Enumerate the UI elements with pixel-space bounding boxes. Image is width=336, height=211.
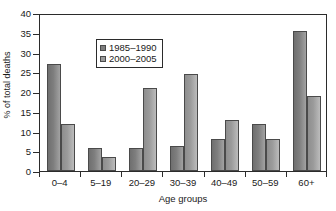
x-axis-tick xyxy=(121,172,122,177)
x-axis-tick xyxy=(326,172,327,177)
y-axis-tick-label: 30 xyxy=(0,49,31,59)
x-axis-tick-label: 5–19 xyxy=(90,178,111,188)
legend-swatch-icon xyxy=(100,56,106,62)
bar-0_4-series1 xyxy=(61,124,75,171)
y-axis-tick-label: 20 xyxy=(0,88,31,98)
legend-item-label: 1985–1990 xyxy=(109,43,157,53)
y-axis-tick-label: 25 xyxy=(0,69,31,79)
bar-20_29-series0 xyxy=(129,148,143,171)
y-axis-tick-label: 5 xyxy=(0,148,31,158)
x-axis-tick-label: 30–39 xyxy=(170,178,196,188)
y-axis-tick-label: 0 xyxy=(0,167,31,177)
bar-5_19-series1 xyxy=(102,157,116,171)
x-axis-tick-label: 40–49 xyxy=(211,178,237,188)
x-axis-tick-label: 50–59 xyxy=(252,178,278,188)
bar-0_4-series0 xyxy=(47,64,61,171)
y-axis-tick-label: 15 xyxy=(0,108,31,118)
x-axis-tick xyxy=(286,172,287,177)
bar-30_39-series0 xyxy=(170,146,184,171)
x-axis-tick xyxy=(204,172,205,177)
bar-50_59-series0 xyxy=(252,124,266,171)
x-axis-tick xyxy=(39,172,40,177)
x-axis-tick-label: 0–4 xyxy=(52,178,68,188)
x-axis-tick xyxy=(245,172,246,177)
bar-40_49-series1 xyxy=(225,120,239,171)
bar-60+-series1 xyxy=(307,96,321,171)
legend-item-1: 2000–2005 xyxy=(100,53,157,64)
x-axis-tick-label: 20–29 xyxy=(129,178,155,188)
bar-20_29-series1 xyxy=(143,88,157,171)
bar-5_19-series0 xyxy=(88,148,102,171)
bar-30_39-series1 xyxy=(184,74,198,171)
bar-60+-series0 xyxy=(293,31,307,171)
y-axis-title: % of total deaths xyxy=(0,0,14,170)
y-axis-tick-label: 35 xyxy=(0,29,31,39)
x-axis-tick xyxy=(80,172,81,177)
x-axis-tick xyxy=(162,172,163,177)
x-axis-tick-label: 60+ xyxy=(298,178,314,188)
legend-item-0: 1985–1990 xyxy=(100,42,157,53)
y-axis-tick-label: 40 xyxy=(0,9,31,19)
legend-swatch-icon xyxy=(100,45,106,51)
chart-legend: 1985–19902000–2005 xyxy=(96,39,163,68)
bar-40_49-series0 xyxy=(211,139,225,171)
x-axis-title: Age groups xyxy=(39,193,327,204)
y-axis-tick-label: 10 xyxy=(0,128,31,138)
legend-item-label: 2000–2005 xyxy=(109,54,157,64)
plot-area: 1985–19902000–2005 xyxy=(39,14,327,172)
bar-chart-figure: % of total deaths 0510152025303540 0–45–… xyxy=(0,0,336,211)
bar-50_59-series1 xyxy=(266,139,280,171)
